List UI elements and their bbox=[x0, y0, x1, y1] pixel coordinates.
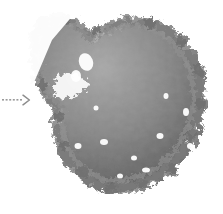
kale-leaf-image bbox=[0, 0, 223, 214]
dotted-arrow-right-icon bbox=[2, 92, 32, 108]
kale-leaf-svg bbox=[0, 0, 223, 214]
arrow-dots bbox=[2, 99, 22, 101]
figure-canvas: Curly kale leaf bbox=[0, 0, 223, 214]
arrow-head-icon bbox=[23, 95, 29, 105]
arrow-svg bbox=[2, 92, 32, 108]
